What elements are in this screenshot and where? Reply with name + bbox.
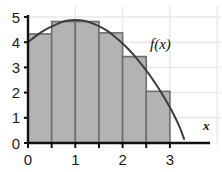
riemann-rectangle — [123, 57, 147, 143]
riemann-rectangle — [52, 22, 76, 143]
y-tick-label: 4 — [12, 34, 20, 51]
x-axis-label: x — [202, 118, 210, 133]
y-tick-label: 5 — [12, 9, 20, 26]
rectangles-group — [28, 22, 170, 143]
y-tick-label: 0 — [12, 135, 20, 152]
riemann-rectangle — [146, 91, 170, 143]
x-tick-label: 1 — [71, 151, 79, 168]
riemann-rectangle — [28, 34, 52, 143]
y-tick-label: 3 — [12, 59, 20, 76]
riemann-rectangle — [99, 33, 123, 143]
riemann-sum-figure: 012345 0123 f(x) x — [0, 0, 222, 172]
y-tick-label: 1 — [12, 109, 20, 126]
x-tick-label: 0 — [24, 151, 32, 168]
function-label: f(x) — [150, 36, 171, 53]
plot-canvas: 012345 0123 f(x) x — [0, 0, 222, 172]
x-tick-label: 3 — [166, 151, 174, 168]
riemann-rectangle — [75, 22, 99, 143]
x-tick-label: 2 — [118, 151, 126, 168]
y-tick-label: 2 — [12, 84, 20, 101]
